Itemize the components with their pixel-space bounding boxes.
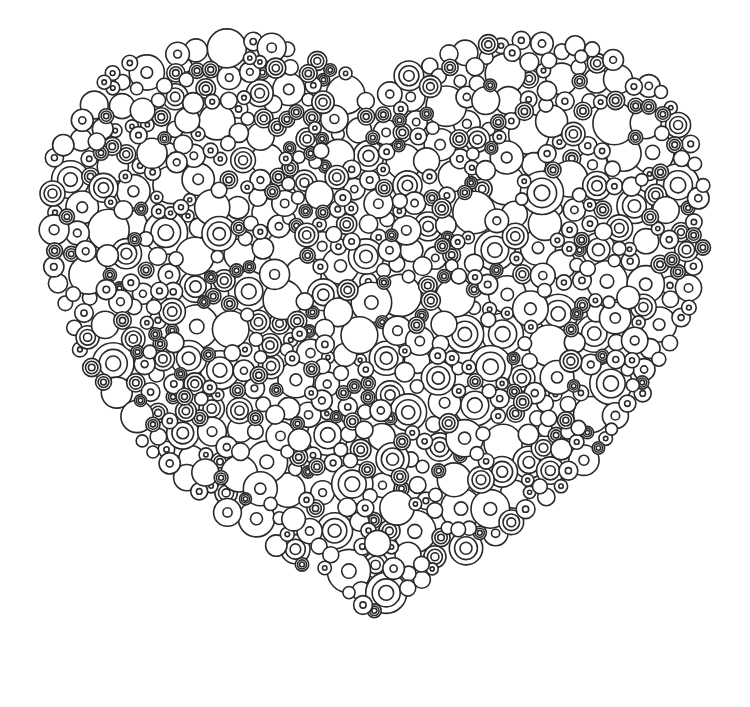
circle-with-dot [292, 326, 307, 341]
plain-circle [334, 366, 349, 381]
plain-circle [612, 242, 626, 256]
concentric-rings [40, 181, 65, 206]
concentric-rings [562, 122, 585, 145]
plain-circle [655, 126, 669, 140]
plain-circle [617, 286, 640, 309]
plain-circle [400, 580, 416, 596]
plain-circle [266, 405, 285, 424]
plain-circle [395, 362, 415, 382]
plain-circle [66, 287, 80, 301]
concentric-rings [442, 59, 458, 75]
plain-circle [174, 135, 193, 154]
plain-circle [575, 50, 588, 63]
circle-with-dot [122, 55, 138, 71]
concentric-rings [330, 411, 342, 423]
plain-circle [147, 446, 159, 458]
circle-with-dot [309, 122, 322, 135]
plain-circle [195, 392, 208, 405]
concentric-rings [377, 276, 390, 289]
concentric-rings [135, 395, 147, 407]
circle-with-dot [243, 52, 256, 65]
concentric-rings [574, 233, 589, 248]
plain-circle [183, 93, 204, 114]
concentric-rings [490, 264, 503, 277]
circle-with-dot [334, 189, 351, 206]
concentric-rings [325, 166, 348, 189]
plain-circle [292, 191, 305, 204]
circle-with-dot [538, 145, 556, 163]
heart-illustration [0, 0, 750, 707]
plain-circle [334, 443, 348, 457]
circle-with-dot [339, 67, 352, 80]
concentric-rings [439, 414, 458, 433]
concentric-rings [198, 296, 210, 308]
circle-with-dot [358, 362, 374, 378]
circle-with-dot [253, 225, 268, 240]
concentric-rings [386, 229, 398, 241]
circle-with-dot [140, 316, 153, 329]
plain-circle [97, 245, 119, 267]
concentric-rings [295, 223, 319, 247]
circle-with-dot [510, 252, 523, 265]
circle-with-dot [162, 413, 178, 429]
plain-circle [476, 427, 490, 441]
plain-circle [466, 58, 484, 76]
plain-circle [211, 182, 227, 198]
circle-with-dot [504, 45, 521, 62]
concentric-rings [358, 108, 375, 125]
plain-circle [157, 78, 172, 93]
plain-circle [429, 488, 442, 501]
concentric-rings [507, 352, 519, 364]
concentric-rings [420, 76, 442, 98]
concentric-rings [361, 376, 375, 390]
circle-with-dot [119, 170, 132, 183]
plain-circle [573, 188, 587, 202]
plain-circle [606, 423, 618, 435]
circle-with-dot [409, 498, 422, 511]
circle-with-dot [159, 453, 180, 474]
circle-with-dot [96, 280, 116, 300]
circle-with-dot [217, 66, 241, 90]
circle-with-dot [318, 561, 331, 574]
circle-with-dot [377, 163, 390, 176]
plain-circle [254, 351, 267, 364]
circle-with-dot [399, 345, 411, 357]
plain-circle [518, 424, 538, 444]
circle-with-dot [518, 175, 531, 188]
circle-with-dot [75, 241, 96, 262]
concentric-rings [289, 105, 304, 120]
plain-circle [537, 81, 556, 100]
concentric-rings [47, 243, 63, 259]
plain-circle [232, 443, 250, 461]
plain-circle [152, 93, 166, 107]
concentric-rings [159, 298, 185, 324]
plain-circle [416, 460, 429, 473]
concentric-rings [390, 394, 427, 431]
plain-circle [522, 354, 537, 369]
circle-with-dot [485, 209, 509, 233]
plain-circle [431, 311, 457, 337]
circle-with-dot [417, 433, 433, 449]
concentric-rings [376, 107, 391, 122]
concentric-rings [560, 350, 582, 372]
circle-with-dot [491, 409, 505, 423]
circle-with-dot [383, 558, 405, 580]
concentric-rings [149, 328, 162, 341]
circle-with-dot [563, 199, 585, 221]
concentric-rings [270, 383, 283, 396]
plain-circle [282, 507, 306, 531]
plain-circle [380, 491, 414, 525]
concentric-rings [348, 379, 362, 393]
circle-with-dot [550, 233, 564, 247]
concentric-rings [514, 393, 532, 411]
circle-with-dot [569, 435, 584, 450]
concentric-rings [574, 102, 592, 120]
plain-circle [571, 420, 586, 435]
concentric-rings [312, 91, 334, 113]
circle-with-dot [625, 353, 640, 368]
circle-with-dot [285, 351, 300, 366]
plain-circle [393, 194, 408, 209]
concentric-rings [515, 102, 533, 120]
plain-circle [580, 261, 595, 276]
concentric-rings [222, 296, 238, 312]
